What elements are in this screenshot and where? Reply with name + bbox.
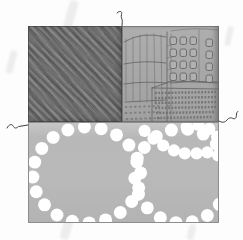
scan-artifact — [5, 50, 18, 75]
figure-canvas — [0, 0, 243, 240]
city-sketch-drawing — [122, 26, 219, 122]
facade-windows — [170, 37, 213, 83]
dotted-rings-pattern — [29, 123, 218, 222]
scan-artifact — [186, 223, 197, 240]
tall-building-sketch — [124, 32, 171, 122]
scan-artifact — [224, 26, 234, 47]
city-sketch-swatch — [122, 26, 219, 122]
leader-line-top — [117, 11, 122, 26]
twill-swatch — [28, 26, 122, 122]
dotted-rings-swatch — [28, 122, 219, 223]
leader-line-left — [7, 125, 28, 128]
window-facade-sketch — [170, 29, 218, 83]
leader-line-right — [219, 112, 238, 123]
